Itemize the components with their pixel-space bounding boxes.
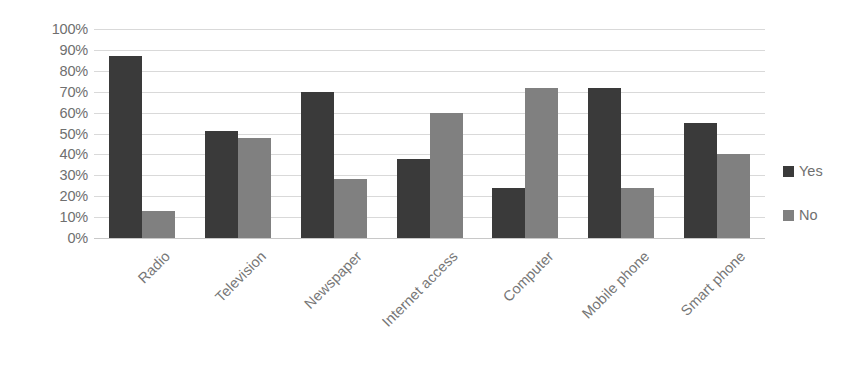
bar-yes	[397, 159, 430, 238]
bar-yes	[205, 131, 238, 238]
bar-no	[238, 138, 271, 238]
bar-group	[684, 29, 750, 238]
legend-swatch-yes	[783, 166, 794, 177]
bar-yes	[109, 56, 142, 238]
bar-no	[430, 113, 463, 238]
legend-item[interactable]: Yes	[783, 163, 844, 180]
legend-label: No	[799, 208, 818, 223]
bar-no	[621, 188, 654, 238]
plot-area	[94, 29, 765, 238]
bar-chart: 0%10%20%30%40%50%60%70%80%90%100% RadioT…	[0, 0, 844, 374]
bar-group	[397, 29, 463, 238]
axis-baseline	[94, 238, 765, 239]
y-axis-tick-label: 100%	[0, 22, 88, 37]
bar-yes	[588, 88, 621, 238]
y-axis-tick-label: 0%	[0, 231, 88, 246]
x-axis-labels: RadioTelevisionNewspaperInternet accessC…	[94, 240, 765, 374]
legend-item[interactable]: No	[783, 207, 844, 224]
y-axis-tick-label: 90%	[0, 43, 88, 58]
y-axis-tick-label: 30%	[0, 168, 88, 183]
bar-no	[142, 211, 175, 238]
y-axis-tick-label: 80%	[0, 64, 88, 79]
y-axis-tick-label: 40%	[0, 147, 88, 162]
bar-group	[109, 29, 175, 238]
y-axis: 0%10%20%30%40%50%60%70%80%90%100%	[0, 29, 88, 238]
bar-group	[205, 29, 271, 238]
y-axis-tick-label: 20%	[0, 189, 88, 204]
y-axis-tick-label: 10%	[0, 210, 88, 225]
bar-no	[525, 88, 558, 238]
y-axis-tick-label: 50%	[0, 126, 88, 141]
chart-legend: YesNo	[783, 163, 844, 251]
bar-yes	[301, 92, 334, 238]
bar-group	[588, 29, 654, 238]
y-axis-tick-label: 70%	[0, 84, 88, 99]
legend-label: Yes	[799, 164, 823, 179]
bar-yes	[492, 188, 525, 238]
bar-group	[301, 29, 367, 238]
bar-no	[334, 179, 367, 238]
bar-yes	[684, 123, 717, 238]
bar-group	[492, 29, 558, 238]
x-axis-tick-label: Radio	[114, 248, 173, 307]
bar-no	[717, 154, 750, 238]
y-axis-tick-label: 60%	[0, 105, 88, 120]
bars-layer	[94, 29, 765, 238]
legend-swatch-no	[783, 210, 794, 221]
